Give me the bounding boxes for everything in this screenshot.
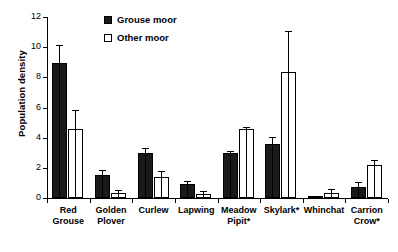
- chart-figure: Population density Grouse moor Other moo…: [0, 0, 398, 252]
- x-tick-mark: [303, 199, 304, 203]
- y-tick-mark: [43, 77, 47, 78]
- y-axis-title: Population density: [16, 19, 27, 169]
- x-tick-mark: [90, 199, 91, 203]
- bar-group: [52, 17, 84, 198]
- y-tick-label: 10: [31, 41, 41, 51]
- bar-group: [138, 17, 170, 198]
- x-tick-mark: [260, 199, 261, 203]
- error-bar-cap: [99, 170, 106, 171]
- error-bar-cap: [72, 110, 79, 111]
- error-bar: [288, 32, 289, 198]
- y-axis-line: [47, 17, 48, 199]
- error-bar: [145, 149, 146, 198]
- error-bar-cap: [115, 190, 122, 191]
- y-tick-label: 0: [36, 192, 41, 202]
- y-tick-mark: [43, 138, 47, 139]
- x-tick-mark: [175, 199, 176, 203]
- x-axis-label: CarrionCrow*: [339, 205, 395, 227]
- x-tick-mark: [47, 199, 48, 203]
- error-bar: [272, 138, 273, 198]
- error-bar: [331, 190, 332, 198]
- bar-group: [308, 17, 340, 198]
- y-tick-label: 8: [36, 71, 41, 81]
- error-bar-cap: [371, 160, 378, 161]
- error-bar-cap: [312, 196, 319, 197]
- x-tick-mark: [132, 199, 133, 203]
- y-tick-label: 6: [36, 102, 41, 112]
- error-bar: [59, 46, 60, 198]
- bar-group: [223, 17, 255, 198]
- error-bar: [374, 161, 375, 198]
- x-tick-mark: [218, 199, 219, 203]
- error-bar-cap: [227, 151, 234, 152]
- error-bar: [358, 183, 359, 198]
- y-tick-label: 4: [36, 132, 41, 142]
- error-bar: [118, 191, 119, 198]
- error-bar-cap: [158, 171, 165, 172]
- error-bar-cap: [269, 137, 276, 138]
- error-bar: [203, 192, 204, 198]
- x-tick-mark: [345, 199, 346, 203]
- y-tick-mark: [43, 108, 47, 109]
- x-tick-mark: [388, 199, 389, 203]
- error-bar-cap: [243, 127, 250, 128]
- error-bar-cap: [142, 148, 149, 149]
- bar-group: [95, 17, 127, 198]
- y-tick-mark: [43, 168, 47, 169]
- error-bar: [102, 171, 103, 198]
- error-bar: [75, 111, 76, 198]
- x-axis-label-line: Pipit*: [211, 216, 267, 227]
- bar-group: [180, 17, 212, 198]
- error-bar: [161, 172, 162, 198]
- error-bar-cap: [285, 31, 292, 32]
- bar-group: [351, 17, 383, 198]
- error-bar-cap: [200, 191, 207, 192]
- error-bar: [230, 152, 231, 198]
- x-axis-label-line: Crow*: [339, 216, 395, 227]
- error-bar-cap: [184, 181, 191, 182]
- y-tick-mark: [43, 47, 47, 48]
- plot-area: 024681012: [47, 17, 388, 199]
- y-tick-mark: [43, 17, 47, 18]
- error-bar: [187, 182, 188, 198]
- error-bar-cap: [328, 189, 335, 190]
- x-axis-label-line: Plover: [83, 216, 139, 227]
- y-tick-label: 12: [31, 11, 41, 21]
- error-bar: [246, 128, 247, 198]
- x-axis-label-line: Carrion: [339, 205, 395, 216]
- error-bar-cap: [56, 45, 63, 46]
- error-bar: [315, 197, 316, 199]
- bar-group: [265, 17, 297, 198]
- error-bar-cap: [355, 182, 362, 183]
- y-tick-label: 2: [36, 162, 41, 172]
